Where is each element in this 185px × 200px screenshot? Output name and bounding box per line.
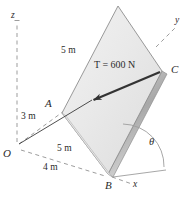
dimension-label-base: 4 m [43,163,58,173]
y-axis-line [156,27,176,47]
engineering-diagram: z y x O A B C 5 m 3 m 5 m 4 m T = 600 N … [0,0,185,200]
axis-label-x: x [133,180,137,190]
dimension-label-plate-side: 5 m [61,46,76,56]
point-label-c: C [171,64,178,75]
axis-label-z: z [11,11,15,21]
point-label-a: A [45,98,52,109]
z-axis-line [15,21,20,143]
diagram-canvas [0,0,185,200]
tension-force-label: T = 600 N [94,60,135,70]
x-axis-line [112,177,132,184]
point-label-o: O [3,148,11,159]
plate-face [62,6,162,174]
dimension-label-ob-horizontal: 5 m [57,144,72,154]
angle-label-theta: θ [149,137,154,148]
point-label-b: B [105,180,112,191]
axis-label-y: y [175,16,179,26]
dimension-label-oa-height: 3 m [21,112,36,122]
